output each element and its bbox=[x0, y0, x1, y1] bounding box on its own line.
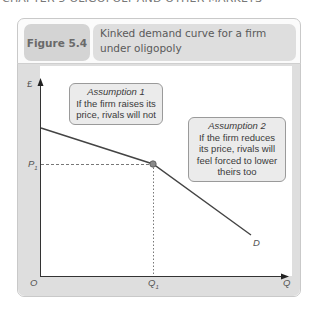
y-axis-arrow-icon bbox=[38, 78, 44, 86]
assumption-1-line-2: price, rivals will not bbox=[70, 109, 162, 121]
assumption-2-note: Assumption 2 If the firm reduces its pri… bbox=[188, 117, 286, 182]
assumption-1-line-1: If the firm raises its bbox=[70, 98, 162, 110]
assumption-2-heading: Assumption 2 bbox=[189, 120, 285, 132]
assumption-1-note: Assumption 1 If the firm raises its pric… bbox=[69, 83, 163, 125]
assumption-1-heading: Assumption 1 bbox=[70, 86, 162, 98]
q1-label: Q1 bbox=[148, 277, 159, 290]
assumption-2-line-3: feel forced to lower bbox=[189, 155, 285, 167]
p1-label: P1 bbox=[28, 158, 38, 171]
demand-curve-label: D bbox=[253, 237, 260, 248]
origin-label: O bbox=[30, 277, 37, 288]
kink-point-icon bbox=[150, 161, 156, 167]
x-axis-label: Q bbox=[283, 277, 290, 288]
assumption-2-line-4: theirs too bbox=[189, 166, 285, 178]
assumption-2-line-2: its price, rivals will bbox=[189, 143, 285, 155]
y-axis-label: £ bbox=[27, 78, 32, 89]
assumption-2-line-1: If the firm reduces bbox=[189, 132, 285, 144]
